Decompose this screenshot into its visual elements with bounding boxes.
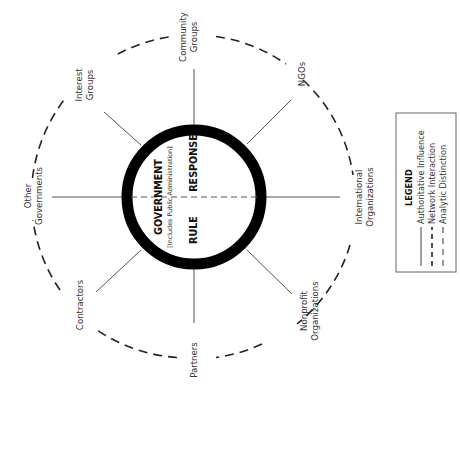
svg-text:Partners: Partners <box>189 342 199 378</box>
svg-text:Organizations: Organizations <box>310 281 320 341</box>
svg-text:Analytic Distinction: Analytic Distinction <box>438 145 448 224</box>
actor-partners: Partners <box>189 342 199 378</box>
response-label: RESPONSE <box>188 134 199 192</box>
svg-text:Governments: Governments <box>34 166 44 225</box>
svg-text:Organizations: Organizations <box>365 167 375 227</box>
governance-diagram: GOVERNMENT [Includes Public Administrati… <box>0 0 460 453</box>
actor-other-governments: Other Governments <box>23 166 44 225</box>
spoke-ngos <box>247 100 291 144</box>
actor-interest-groups: Interest Groups <box>74 68 95 102</box>
svg-text:Network Interaction: Network Interaction <box>427 143 437 224</box>
svg-text:Contractors: Contractors <box>75 279 85 330</box>
legend: LEGEND Authoritative Influence Network I… <box>396 113 456 272</box>
svg-text:Interest: Interest <box>74 68 84 102</box>
svg-text:NGOs: NGOs <box>297 61 307 86</box>
svg-text:Community: Community <box>178 12 188 62</box>
rule-label: RULE <box>188 216 199 244</box>
actor-international-organizations: International Organizations <box>354 167 375 227</box>
government-subtitle: [Includes Public Administration] <box>166 146 174 247</box>
actor-ngos: NGOs <box>297 61 307 86</box>
spoke-contractors <box>96 250 141 292</box>
svg-text:Other: Other <box>23 183 33 208</box>
svg-text:Nonprofit: Nonprofit <box>299 290 309 331</box>
government-title: GOVERNMENT <box>153 159 164 235</box>
spoke-nonprofit-organizations <box>247 250 292 294</box>
actor-community-groups: Community Groups <box>178 12 199 62</box>
svg-text:International: International <box>354 170 364 225</box>
svg-text:Authoritative Influence: Authoritative Influence <box>416 130 426 224</box>
actor-contractors: Contractors <box>75 279 85 330</box>
svg-text:Groups: Groups <box>189 21 199 52</box>
svg-text:Groups: Groups <box>85 69 95 100</box>
actor-nonprofit-organizations: Nonprofit Organizations <box>299 281 320 341</box>
spoke-interest-groups <box>104 112 141 145</box>
legend-title: LEGEND <box>404 169 414 206</box>
